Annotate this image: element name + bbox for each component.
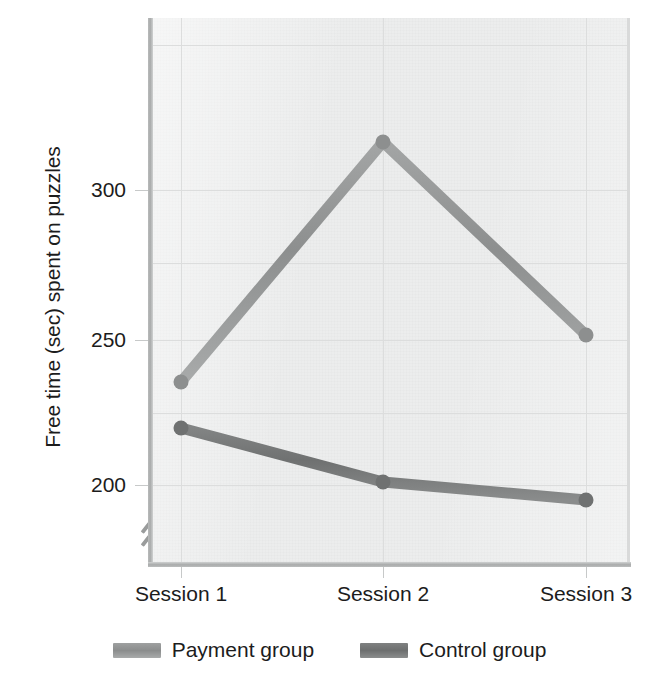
y-axis-title: Free time (sec) spent on puzzles (41, 87, 65, 507)
legend-item-payment-group: Payment group (113, 638, 314, 662)
series-payment-point-session-2 (376, 135, 391, 150)
series-payment-line (181, 142, 586, 382)
legend-label-control-group: Control group (419, 638, 546, 662)
chart-legend: Payment group Control group (0, 638, 659, 662)
legend-item-control-group: Control group (360, 638, 546, 662)
y-tick-mark-250 (135, 340, 148, 341)
line-chart-figure: Free time (sec) spent on puzzles 300 250… (0, 0, 659, 694)
x-tick-label-session-3: Session 3 (540, 582, 632, 606)
x-tick-mark-session-2 (383, 567, 384, 578)
x-tick-mark-session-1 (181, 567, 182, 578)
series-control-point-session-1 (174, 421, 189, 436)
y-tick-label-250: 250 (72, 328, 126, 352)
legend-label-payment-group: Payment group (172, 638, 314, 662)
series-control-group (174, 421, 594, 508)
series-layer (148, 18, 628, 565)
x-tick-mark-session-3 (586, 567, 587, 578)
y-tick-label-300: 300 (72, 178, 126, 202)
y-tick-mark-300 (135, 190, 148, 191)
series-payment-group (174, 135, 594, 390)
series-payment-point-session-1 (174, 375, 189, 390)
x-tick-label-session-1: Session 1 (135, 582, 227, 606)
series-control-point-session-2 (376, 475, 391, 490)
x-tick-label-session-2: Session 2 (337, 582, 429, 606)
y-tick-mark-200 (135, 485, 148, 486)
legend-swatch-payment-group (113, 643, 161, 658)
series-payment-point-session-3 (579, 328, 594, 343)
series-control-point-session-3 (579, 493, 594, 508)
y-tick-label-200: 200 (72, 473, 126, 497)
legend-swatch-control-group (360, 643, 408, 658)
